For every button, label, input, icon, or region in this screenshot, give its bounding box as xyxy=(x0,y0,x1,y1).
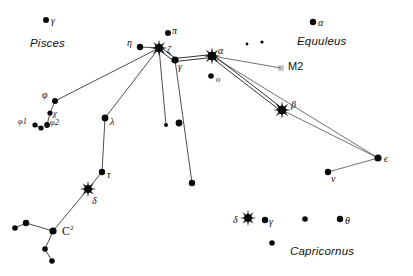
star-label-aqr-gamma: γ xyxy=(178,62,182,72)
star-aqr-phi xyxy=(52,98,58,104)
star-aqr-lambda xyxy=(102,115,109,122)
star-label-aqr-epsilon: ϵ xyxy=(384,154,388,164)
star-aqr-eta xyxy=(137,44,143,50)
star-aqr-omicron xyxy=(208,73,214,79)
constellation-line xyxy=(328,158,378,172)
star-label-aqr-zeta: ζ xyxy=(167,45,171,55)
star-label-aqr-lambda: λ xyxy=(110,117,114,127)
star-aqr-chi xyxy=(47,110,52,115)
star-label-aqr-alpha: α xyxy=(218,46,223,56)
constellation-line xyxy=(26,223,53,231)
star-label-cap-theta: θ xyxy=(345,216,350,226)
constellation-label-equuleus: Equuleus xyxy=(297,36,347,48)
star-aqr-phi1 xyxy=(32,122,37,127)
star-label-aqr-pi: π xyxy=(172,26,177,36)
star-label-equ-alpha: α xyxy=(318,18,323,28)
star-aqr-c2 xyxy=(49,227,56,234)
star-label-aqr-phi: φ xyxy=(42,90,48,100)
star-equ-faint2 xyxy=(260,40,263,43)
star-aqr-mid2 xyxy=(164,123,168,127)
star-aqr-c2-d xyxy=(49,258,55,264)
constellation-line xyxy=(102,118,105,172)
star-aqr-zeta xyxy=(150,39,167,56)
dso-label-m2: M2 xyxy=(288,61,303,72)
globular-cluster-icon xyxy=(278,65,283,70)
constellation-line xyxy=(211,55,283,111)
star-cap-delta xyxy=(240,210,256,226)
constellation-line xyxy=(105,48,159,118)
star-aqr-mid1 xyxy=(176,120,183,127)
star-equ-faint1 xyxy=(246,43,249,46)
star-aqr-tau xyxy=(99,169,105,175)
star-label-aqr-phi2: φ2 xyxy=(50,118,59,127)
constellation-label-capricornus: Capricornus xyxy=(290,246,354,258)
star-label-pisces-gamma: γ xyxy=(51,16,55,26)
star-label-aqr-phi1: φ1 xyxy=(18,117,27,126)
star-cap-faint xyxy=(302,216,308,222)
star-equ-alpha xyxy=(310,19,316,25)
constellation-line xyxy=(282,110,378,158)
star-cap-theta xyxy=(337,216,343,222)
star-label-cap-delta: δ xyxy=(233,215,238,225)
star-aqr-epsilon xyxy=(374,154,381,161)
star-aqr-mid3 xyxy=(189,180,195,186)
star-label-aqr-tau: τ xyxy=(107,170,111,180)
constellation-line xyxy=(159,48,166,125)
star-label-aqr-omicron: o xyxy=(216,75,220,84)
star-aqr-beta xyxy=(273,101,291,119)
star-label-aqr-nu: ν xyxy=(331,174,335,184)
star-chart: γφχφ1φ2ηζπγαoβαλτδϵνδγθM2PiscesEquuleusC… xyxy=(0,0,413,276)
star-label-cap-gamma: γ xyxy=(269,217,273,227)
star-aqr-c2-c xyxy=(42,246,48,252)
constellation-line xyxy=(55,48,159,101)
star-label-aqr-eta: η xyxy=(127,38,132,48)
star-cap-gamma xyxy=(262,217,268,223)
star-label-aqr-beta: β xyxy=(291,100,296,110)
constellation-label-pisces: Pisces xyxy=(30,38,65,50)
star-aqr-pi xyxy=(165,30,171,36)
star-pisces-gamma xyxy=(43,17,49,23)
deep-sky-objects xyxy=(278,65,283,70)
c2-label: C2 xyxy=(62,225,74,237)
star-label-aqr-delta: δ xyxy=(92,196,97,206)
star-aqr-c2-a xyxy=(23,220,29,226)
star-aqr-phi1b xyxy=(38,125,43,130)
star-aqr-c2-b xyxy=(12,225,18,231)
star-cap-lower xyxy=(269,240,275,246)
